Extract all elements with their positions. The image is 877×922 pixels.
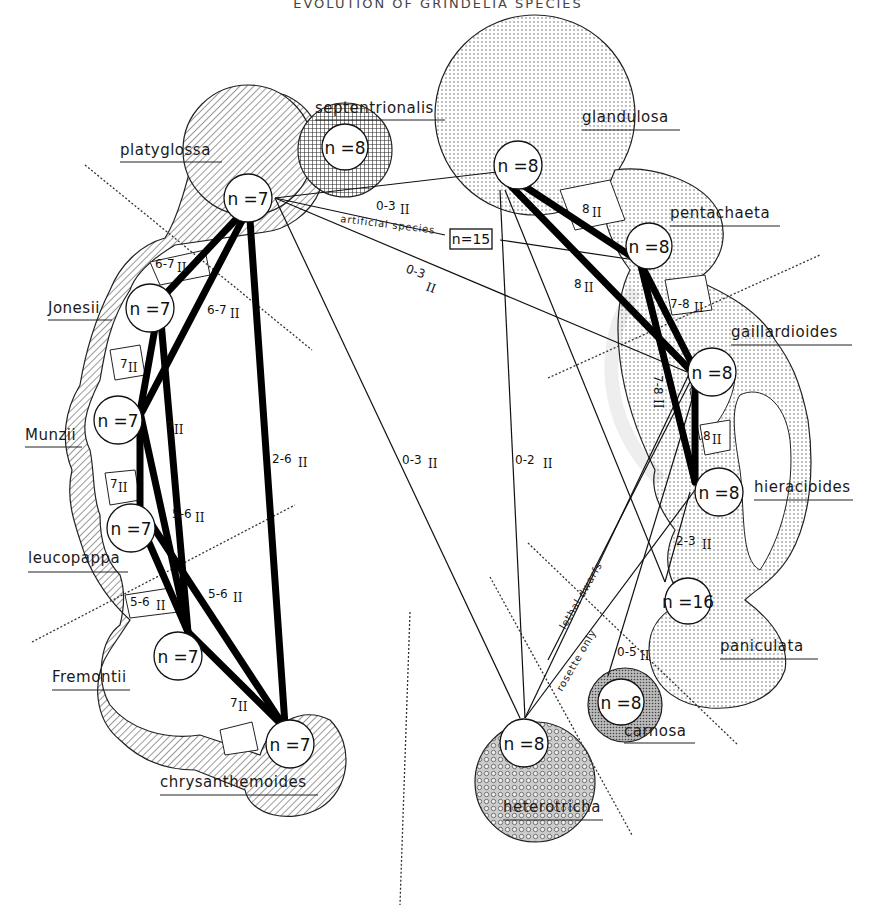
svg-text:II: II	[233, 591, 243, 605]
figure-title: EVOLUTION OF GRINDELIA SPECIES	[293, 0, 583, 11]
svg-text:II: II	[712, 433, 722, 447]
svg-text:II: II	[118, 481, 128, 495]
svg-text:n =8: n =8	[628, 237, 669, 257]
svg-text:II: II	[177, 261, 187, 275]
svg-text:glandulosa: glandulosa	[582, 108, 669, 126]
svg-text:II: II	[156, 599, 166, 613]
svg-text:8: 8	[703, 429, 711, 443]
svg-text:chrysanthemoides: chrysanthemoides	[160, 773, 306, 791]
svg-text:0-3: 0-3	[376, 199, 396, 213]
svg-text:II: II	[702, 538, 712, 552]
edge-label: 7II	[230, 696, 248, 714]
node-pentachaeta[interactable]: n =8	[626, 223, 672, 269]
svg-text:7: 7	[166, 419, 174, 433]
svg-text:II: II	[640, 649, 650, 663]
svg-text:paniculata: paniculata	[720, 637, 804, 655]
edge-label: 0-2II	[515, 453, 553, 471]
svg-text:n=15: n=15	[452, 231, 490, 247]
svg-text:6-7: 6-7	[155, 257, 175, 271]
diagram-stage: EVOLUTION OF GRINDELIA SPECIES	[0, 0, 877, 922]
node-leucopappa[interactable]: n =7	[107, 504, 155, 552]
svg-text:II: II	[174, 423, 184, 437]
node-gaillardioides[interactable]: n =8	[688, 348, 736, 396]
svg-text:n =7: n =7	[129, 299, 170, 319]
node-heterotricha[interactable]: n =8	[500, 719, 548, 767]
svg-text:2-6: 2-6	[272, 452, 292, 466]
node-carnosa[interactable]: n =8	[598, 679, 644, 725]
svg-text:hieracioides: hieracioides	[754, 478, 851, 496]
edge-label: 0-3II	[404, 262, 438, 296]
edge-label: 0-3II	[402, 453, 438, 471]
artificial-species[interactable]: n=15 artificial species	[340, 213, 492, 249]
rosette-only-note: rosette only	[554, 627, 598, 693]
edge-label: 2-6II	[272, 452, 308, 470]
svg-text:0-3: 0-3	[402, 453, 422, 467]
svg-text:5-6: 5-6	[172, 507, 192, 521]
svg-text:II: II	[238, 700, 248, 714]
svg-text:5-6: 5-6	[208, 587, 228, 601]
svg-text:pentachaeta: pentachaeta	[670, 204, 770, 222]
svg-text:n =8: n =8	[600, 693, 641, 713]
svg-text:8: 8	[582, 202, 590, 216]
edge-label: 8II	[574, 277, 594, 295]
label-platyglossa[interactable]: platyglossa	[120, 141, 222, 162]
svg-text:Jonesii: Jonesii	[47, 299, 100, 317]
svg-text:n =7: n =7	[227, 189, 268, 209]
svg-text:II: II	[400, 203, 410, 217]
svg-text:n =8: n =8	[698, 483, 739, 503]
svg-text:8: 8	[574, 277, 582, 291]
svg-text:II: II	[424, 280, 438, 296]
label-Fremontii[interactable]: Fremontii	[52, 668, 130, 690]
svg-text:7: 7	[120, 357, 128, 371]
svg-text:0-5: 0-5	[617, 645, 637, 659]
node-platyglossa[interactable]: n =7	[224, 174, 272, 222]
edge-label: 0-5II	[617, 645, 650, 663]
label-Munzii[interactable]: Munzii	[25, 426, 82, 447]
svg-text:heterotricha: heterotricha	[503, 798, 601, 816]
svg-text:n =8: n =8	[497, 156, 538, 176]
svg-text:septentrionalis: septentrionalis	[315, 99, 434, 117]
svg-text:gaillardioides: gaillardioides	[731, 323, 838, 341]
svg-text:n =7: n =7	[97, 411, 138, 431]
edge-label: 0-3II	[376, 199, 410, 217]
svg-text:7: 7	[230, 696, 238, 710]
label-septentrionalis[interactable]: septentrionalis	[315, 99, 445, 120]
svg-text:n =8: n =8	[503, 734, 544, 754]
svg-text:II: II	[428, 457, 438, 471]
svg-text:Munzii: Munzii	[25, 426, 76, 444]
svg-text:n =8: n =8	[691, 363, 732, 383]
svg-text:7-8: 7-8	[670, 297, 690, 311]
edge-label: 7-8II	[651, 375, 665, 409]
node-septentrionalis[interactable]: n =8	[322, 124, 368, 170]
svg-text:II: II	[195, 511, 205, 525]
svg-text:II: II	[584, 281, 594, 295]
svg-text:7-8: 7-8	[651, 375, 665, 395]
node-glandulosa[interactable]: n =8	[494, 141, 542, 189]
svg-text:0-2: 0-2	[515, 453, 535, 467]
node-Munzii[interactable]: n =7	[94, 396, 142, 444]
svg-text:platyglossa: platyglossa	[120, 141, 211, 159]
artificial-species-label: artificial species	[340, 213, 436, 236]
label-carnosa[interactable]: carnosa	[624, 722, 695, 743]
hybridization-diagram: EVOLUTION OF GRINDELIA SPECIES	[0, 0, 877, 922]
svg-text:n =7: n =7	[269, 735, 310, 755]
svg-text:II: II	[694, 301, 704, 315]
svg-text:n =7: n =7	[157, 647, 198, 667]
svg-text:Fremontii: Fremontii	[52, 668, 127, 686]
svg-text:II: II	[651, 399, 665, 409]
svg-text:II: II	[128, 361, 138, 375]
node-Jonesii[interactable]: n =7	[126, 284, 174, 332]
svg-text:0-3: 0-3	[404, 262, 427, 282]
svg-text:n =16: n =16	[662, 592, 714, 612]
svg-text:leucopappa: leucopappa	[28, 549, 120, 567]
svg-text:II: II	[230, 307, 240, 321]
svg-text:II: II	[592, 206, 602, 220]
svg-text:7: 7	[110, 477, 118, 491]
svg-text:6-7: 6-7	[207, 303, 227, 317]
node-chrysanthemoides[interactable]: n =7	[266, 720, 314, 768]
svg-text:2-3: 2-3	[676, 534, 696, 548]
node-hieracioides[interactable]: n =8	[695, 468, 743, 516]
node-Fremontii[interactable]: n =7	[154, 632, 202, 680]
edge-label: 5-6II	[208, 587, 243, 605]
svg-text:carnosa: carnosa	[624, 722, 687, 740]
